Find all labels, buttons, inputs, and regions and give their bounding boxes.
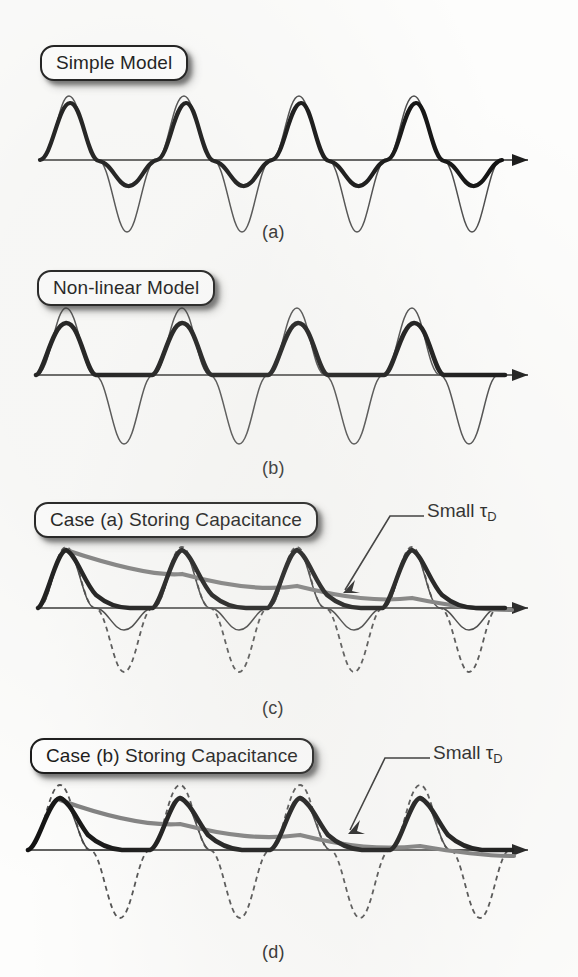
panel-d: Case (b) Storing Capacitance Small τD (d…: [0, 730, 578, 977]
axis-arrow-icon: [512, 369, 528, 381]
panel-b-tag: (b): [262, 458, 285, 479]
panel-a-label-text: Simple Model: [56, 52, 172, 73]
panel-d-label-text: Case (b) Storing Capacitance: [46, 745, 298, 766]
panel-d-tag: (d): [262, 942, 285, 963]
panel-d-label-capsule: Case (b) Storing Capacitance: [30, 738, 314, 774]
panel-c-annotation: Small τD: [427, 500, 497, 522]
waveform-figure: Simple Model (a) Non-linear Model (b): [0, 0, 578, 977]
panel-c-annotation-text: Small τ: [427, 500, 487, 521]
panel-a-label-capsule: Simple Model: [40, 45, 188, 81]
panel-a: Simple Model (a): [0, 0, 578, 250]
panel-c-label-text: Case (a) Storing Capacitance: [50, 509, 302, 530]
curve-thick-storing-response-d: [28, 798, 512, 850]
panel-c-label-capsule: Case (a) Storing Capacitance: [34, 502, 318, 538]
panel-d-annotation-subscript: D: [493, 751, 502, 766]
panel-d-annotation: Small τD: [433, 742, 503, 764]
curve-input-sine-a: [40, 96, 501, 232]
axis-a: [40, 154, 528, 166]
curve-simple-model-response-a: [40, 103, 502, 186]
panel-a-plot: [0, 0, 578, 250]
curve-thick-storing-response-c: [38, 550, 505, 608]
curve-non-linear-model-response-b: [36, 323, 505, 375]
panel-d-annotation-text: Small τ: [433, 742, 493, 763]
panel-b-label-capsule: Non-linear Model: [37, 270, 215, 306]
panel-c-tag: (c): [262, 698, 284, 719]
axis-arrow-icon: [512, 602, 528, 614]
panel-c-annotation-subscript: D: [487, 509, 496, 524]
panel-c: Case (a) Storing Capacitance Small τD (c…: [0, 490, 578, 730]
panel-b-label-text: Non-linear Model: [53, 277, 199, 298]
panel-a-tag: (a): [262, 222, 285, 243]
panel-b: Non-linear Model (b): [0, 250, 578, 490]
axis-arrow-icon: [512, 154, 528, 166]
